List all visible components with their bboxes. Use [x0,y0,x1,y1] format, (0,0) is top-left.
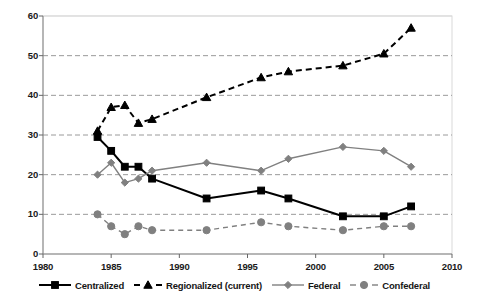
y-axis-tick-label: 10 [8,208,38,219]
square-marker-icon [203,195,210,202]
square-marker-icon [149,175,156,182]
diamond-marker-icon [284,281,291,288]
legend-item-label: Confederal [382,280,430,291]
y-axis-tick-label: 50 [8,50,38,61]
circle-marker-icon [135,223,142,230]
square-marker-icon [121,163,128,170]
circle-marker-icon [339,227,346,234]
y-axis-tick-label: 30 [8,129,38,140]
x-axis-ticks [43,254,452,258]
x-axis-tick-label: 1995 [223,261,273,272]
x-axis-tick-label: 1990 [154,261,204,272]
circle-marker-icon [285,223,292,230]
y-axis-tick-label: 20 [8,169,38,180]
y-axis-tick-label: 0 [8,248,38,259]
circle-marker-icon [361,281,368,288]
square-marker-icon [340,213,347,220]
square-marker-icon [380,213,387,220]
circle-marker-icon [203,227,210,234]
line-chart: 6050403020100 19801985199019952000200520… [0,0,477,305]
square-marker-icon [38,279,72,291]
circle-marker-icon [258,219,265,226]
circle-marker-icon [380,223,387,230]
square-marker-icon [135,163,142,170]
square-marker-icon [285,195,292,202]
legend-item-regionalized-current[interactable]: Regionalized (current) [133,279,262,291]
chart-plot-area [0,0,477,305]
legend-item-label: Centralized [75,280,124,291]
legend-item-centralized[interactable]: Centralized [38,279,124,291]
circle-marker-icon [148,227,155,234]
circle-marker-icon [349,279,379,291]
y-axis-ticks [39,16,43,254]
x-axis-tick-label: 2000 [291,261,341,272]
legend-item-label: Regionalized (current) [166,280,262,291]
y-axis-tick-label: 60 [8,10,38,21]
square-marker-icon [258,187,265,194]
triangle-marker-icon [144,281,152,288]
x-axis-tick-label: 2010 [427,261,477,272]
y-axis-tick-label: 40 [8,89,38,100]
x-axis-tick-label: 2005 [359,261,409,272]
legend-item-federal[interactable]: Federal [271,279,340,291]
circle-marker-icon [408,223,415,230]
square-marker-icon [408,203,415,210]
legend-item-label: Federal [308,280,340,291]
legend-item-confederal[interactable]: Confederal [349,279,430,291]
circle-marker-icon [121,231,128,238]
triangle-marker-icon [133,279,163,291]
circle-marker-icon [108,223,115,230]
x-axis-tick-label: 1980 [18,261,68,272]
square-marker-icon [52,282,59,289]
x-axis-tick-label: 1985 [86,261,136,272]
diamond-marker-icon [271,279,305,291]
square-marker-icon [108,147,115,154]
circle-marker-icon [94,211,101,218]
chart-legend: CentralizedRegionalized (current)Federal… [0,279,477,291]
